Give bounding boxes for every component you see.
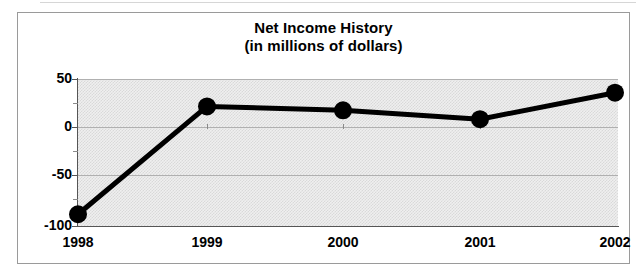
gridline-0: [78, 127, 618, 128]
gridline-50: [78, 79, 618, 80]
gridline-minus-50: [78, 175, 618, 176]
x-axis-label-2002: 2002: [575, 234, 644, 250]
y-axis-line: [77, 78, 78, 227]
chart-title-subtitle: (in millions of dollars): [17, 37, 630, 55]
chart-title-main: Net Income History: [254, 19, 393, 36]
y-tick-minus-50: [72, 175, 78, 176]
y-tick-0: [72, 127, 78, 128]
y-tick-minus-100: [72, 226, 78, 227]
y-axis-label-minus-100: -100: [4, 217, 72, 233]
y-axis-label-minus-50: -50: [4, 166, 72, 182]
y-minor-tick-minus-75: [73, 199, 78, 200]
x-axis-label-1998: 1998: [38, 234, 118, 250]
x-tick-2001: [480, 124, 481, 129]
y-tick-50: [72, 79, 78, 80]
chart-title: Net Income History (in millions of dolla…: [17, 19, 630, 55]
x-tick-2000: [343, 124, 344, 129]
x-axis-label-2001: 2001: [440, 234, 520, 250]
y-axis-label-50: 50: [4, 70, 72, 86]
y-minor-tick-25: [73, 103, 78, 104]
plot-area: [78, 79, 618, 226]
x-axis-line: [77, 226, 619, 227]
y-minor-tick-minus-25: [73, 151, 78, 152]
x-tick-1999: [207, 124, 208, 129]
x-axis-label-2000: 2000: [303, 234, 383, 250]
page-scan-line: [40, 2, 636, 3]
net-income-history-chart-figure: Net Income History (in millions of dolla…: [0, 0, 644, 275]
x-axis-label-1999: 1999: [167, 234, 247, 250]
y-axis-label-0: 0: [4, 118, 72, 134]
